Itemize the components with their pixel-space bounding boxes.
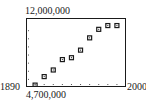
scatter-plot	[26, 18, 126, 87]
y-tick	[28, 63, 29, 64]
x-tick	[89, 84, 90, 85]
y-tick	[28, 46, 29, 47]
y-tick	[28, 38, 29, 39]
x-tick	[107, 84, 108, 85]
plot-area	[26, 18, 126, 87]
plot-frame	[27, 19, 126, 87]
y-max-label: 12,000,000	[25, 6, 70, 16]
y-tick	[28, 79, 29, 80]
y-tick	[28, 30, 29, 31]
y-tick	[28, 55, 29, 56]
x-max-label: 2000	[127, 82, 146, 92]
x-tick	[53, 84, 54, 85]
x-tick	[98, 84, 99, 85]
x-tick	[71, 84, 72, 85]
y-min-label: 4,700,000	[26, 90, 66, 100]
x-min-label: 1890	[0, 82, 20, 92]
x-tick	[116, 84, 117, 85]
x-tick	[80, 84, 81, 85]
y-tick	[28, 71, 29, 72]
x-tick	[62, 84, 63, 85]
x-tick	[44, 84, 45, 85]
